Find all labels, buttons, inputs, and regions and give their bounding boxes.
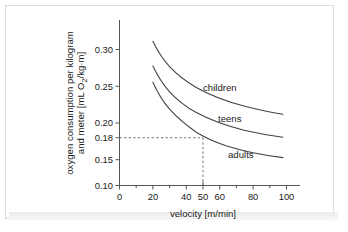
curve-label-adults: adults <box>228 149 254 160</box>
curve-teens <box>153 66 283 137</box>
curve-labels-group: children teens adults <box>203 82 254 160</box>
curve-label-children: children <box>203 82 237 93</box>
y-tick-label-0.20: 0.20 <box>95 117 113 128</box>
y-axis-title-line1: oxygen consumption per kilogram <box>64 31 75 174</box>
x-tick-label-100: 100 <box>279 191 295 202</box>
figure-container: 0.30 0.25 0.20 0.18 0.15 0.10 0 20 40 <box>0 0 348 232</box>
x-tick-label-80: 80 <box>248 191 258 202</box>
y-axis-title-line2-post: /kg·m] <box>75 52 86 79</box>
x-axis-title: velocity [m/min] <box>170 208 236 219</box>
x-tick-label-60: 60 <box>214 191 224 202</box>
x-tick-label-20: 20 <box>148 191 158 202</box>
x-tick-label-50: 50 <box>198 191 208 202</box>
y-tick-label-0.10: 0.10 <box>95 180 113 191</box>
y-tick-label-0.30: 0.30 <box>95 44 113 55</box>
y-tick-labels: 0.30 0.25 0.20 0.18 0.15 0.10 <box>95 44 113 191</box>
y-axis-title-line2-pre: and meter [mL O <box>75 83 86 155</box>
oxygen-consumption-chart: 0.30 0.25 0.20 0.18 0.15 0.10 0 20 40 <box>0 0 348 232</box>
curves-group <box>153 41 283 157</box>
curve-children <box>153 41 283 114</box>
y-ticks-group <box>116 50 120 186</box>
axes-group <box>120 20 301 186</box>
x-tick-labels: 0 20 40 50 60 80 100 <box>117 191 294 202</box>
y-tick-label-0.25: 0.25 <box>95 81 113 92</box>
x-tick-label-40: 40 <box>181 191 191 202</box>
y-axis-title-line2: and meter [mL O2/kg·m] <box>75 52 89 154</box>
curve-label-teens: teens <box>218 113 242 124</box>
y-tick-label-0.15: 0.15 <box>95 154 113 165</box>
reference-lines-group <box>120 138 204 186</box>
x-tick-label-0: 0 <box>117 191 122 202</box>
y-tick-label-0.18: 0.18 <box>95 132 113 143</box>
